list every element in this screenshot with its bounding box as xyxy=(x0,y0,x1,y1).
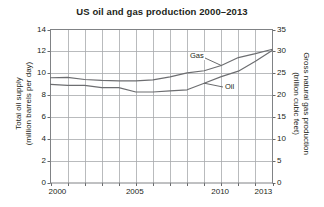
series-line-oil xyxy=(51,50,273,92)
plot-frame xyxy=(51,30,273,184)
horizontal-gridlines xyxy=(51,52,273,162)
series-label-oil: Oil xyxy=(224,83,235,91)
vertical-gridlines xyxy=(69,30,256,184)
series-line-gas xyxy=(51,49,273,81)
chart-figure: US oil and gas production 2000–2013 Tota… xyxy=(0,0,324,207)
series-label-gas: Gas xyxy=(189,52,205,60)
oil-leader-line xyxy=(204,83,223,87)
gas-leader-line xyxy=(205,58,221,66)
plot-area xyxy=(0,0,324,207)
